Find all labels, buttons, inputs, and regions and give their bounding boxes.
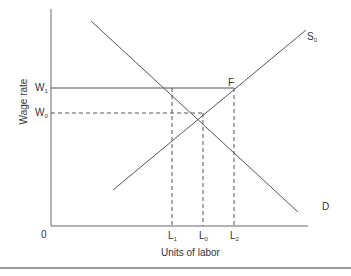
origin-label: 0	[41, 230, 47, 240]
w0-label: W0	[35, 108, 48, 119]
supply-label: S0	[307, 32, 317, 43]
l2-label: L2	[230, 231, 239, 242]
l1-label: L1	[168, 231, 177, 242]
demand-curve	[91, 21, 298, 212]
point-f-label: F	[228, 78, 234, 88]
w1-label: W1	[35, 83, 48, 94]
y-axis-label: Wage rate	[18, 77, 29, 127]
x-axis-label: Units of labor	[161, 248, 220, 258]
supply-curve	[113, 30, 306, 190]
l0-label: L0	[199, 231, 208, 242]
demand-label: D	[322, 202, 329, 212]
